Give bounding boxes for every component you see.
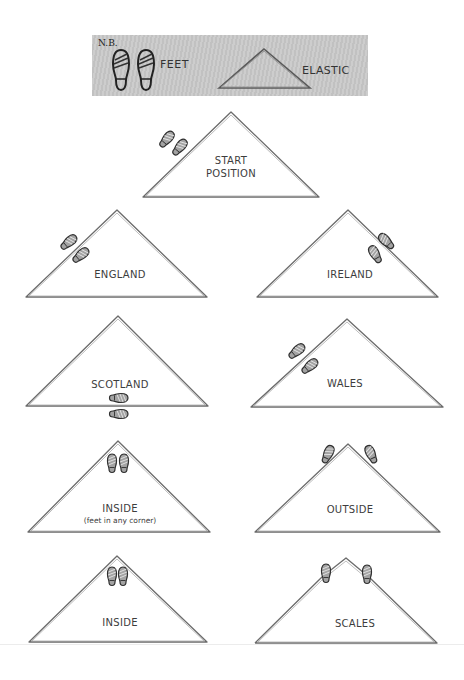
feet-england	[59, 233, 91, 265]
legend-elastic-triangle-icon	[219, 49, 310, 88]
label-inside: INSIDE	[80, 617, 160, 628]
label-scotland: SCOTLAND	[80, 379, 160, 390]
label-start: START	[196, 155, 266, 166]
label-start-position: POSITION	[196, 168, 266, 179]
label-inside-any: INSIDE	[80, 503, 160, 514]
elastic-triangle-outside	[255, 444, 440, 532]
elastic-triangle-wales	[251, 319, 443, 407]
elastic-triangle-inside	[29, 556, 207, 642]
feet-scales	[322, 564, 372, 584]
elastic-triangle-england	[26, 210, 207, 297]
feet-inside-any	[108, 454, 129, 473]
elastic-triangle-scotland	[26, 316, 208, 406]
elastic-triangle-scales	[255, 558, 437, 643]
diagram-canvas	[0, 0, 464, 680]
label-outside: OUTSIDE	[310, 504, 390, 515]
feet-start	[157, 129, 189, 157]
feet-inside	[108, 567, 128, 586]
legend-feet-icon	[113, 50, 154, 90]
label-england: ENGLAND	[80, 269, 160, 280]
elastic-triangle-ireland	[257, 210, 438, 297]
page-edge	[0, 644, 464, 645]
label-scales: SCALES	[315, 618, 395, 629]
label-wales: WALES	[305, 378, 385, 389]
diagram-page: N.B. FEET ELASTIC	[0, 0, 464, 680]
label-inside-any-note: (feet in any corner)	[65, 516, 175, 525]
label-ireland: IRELAND	[310, 269, 390, 280]
feet-ireland	[367, 231, 396, 264]
